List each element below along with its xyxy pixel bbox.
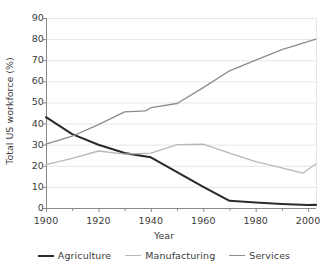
legend-item-label: Agriculture [58, 250, 111, 261]
legend-item-label: Manufacturing [145, 250, 215, 261]
legend-item-agriculture[interactable]: Agriculture [38, 250, 111, 261]
legend-item-services[interactable]: Services [229, 250, 290, 261]
x-tick-label-1940: 1940 [139, 215, 164, 226]
x-tick-label-1920: 1920 [86, 215, 111, 226]
x-tick-label-1900: 1900 [34, 215, 59, 226]
legend-line-swatch-icon [38, 255, 54, 257]
chart-legend: AgricultureManufacturingServices [0, 250, 328, 261]
legend-item-manufacturing[interactable]: Manufacturing [125, 250, 215, 261]
x-tick-label-1960: 1960 [191, 215, 216, 226]
line-chart: Total US workforce (%) 01020304050607080… [0, 0, 328, 274]
legend-line-swatch-icon [125, 255, 141, 256]
x-tick-label-1980: 1980 [243, 215, 268, 226]
x-axis-title: Year [0, 230, 328, 241]
legend-item-label: Services [249, 250, 290, 261]
legend-line-swatch-icon [229, 255, 245, 256]
x-tick-label-2000: 2000 [296, 215, 321, 226]
